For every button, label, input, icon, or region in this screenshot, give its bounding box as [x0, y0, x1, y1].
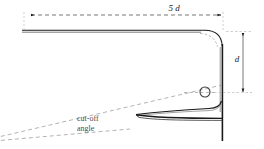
reflector-group: [136, 101, 222, 120]
horizontal-dimension-label: 5 d: [168, 3, 180, 13]
cutoff-label-line1: cut-off: [77, 114, 99, 123]
vertical-dimension-group: d: [235, 33, 243, 92]
ceiling-wall-corner: [205, 30, 222, 46]
reflector-lower-edge: [136, 115, 222, 119]
cutoff-label-line2: angle: [77, 124, 95, 133]
cutoff-angle-label-group: cut-off angle: [77, 114, 99, 133]
cutoff-ray-lower: [0, 129, 130, 141]
vertical-dimension-label: d: [235, 54, 240, 64]
ceiling-group: [22, 30, 205, 32]
horizontal-dimension-group: 5 d: [31, 3, 221, 15]
luminaire-cutoff-diagram: 5 d d: [0, 0, 264, 149]
diagram-canvas: 5 d d: [0, 0, 264, 149]
corner-arc-dashed: [200, 34, 218, 48]
reflector-upper-edge: [136, 101, 222, 115]
cutoff-angle-rays: [0, 85, 222, 141]
lamp-icon: [200, 87, 210, 97]
